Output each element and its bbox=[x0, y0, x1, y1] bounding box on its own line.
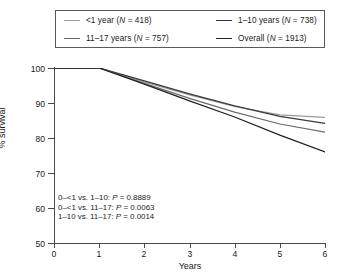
y-tick-label-50: 50 bbox=[35, 239, 45, 249]
p-value-annotations: 0–<1 vs. 1–10: P = 0.8889 0–<1 vs. 11–17… bbox=[58, 193, 154, 222]
x-tick-label-5: 5 bbox=[278, 249, 283, 259]
legend-label-under-1-year: <1 year (N = 418) bbox=[86, 16, 152, 25]
x-tick-label-6: 6 bbox=[323, 249, 328, 259]
y-tick-label-60: 60 bbox=[35, 204, 45, 214]
curve-11-17-years bbox=[54, 68, 325, 132]
legend-swatch-under-1-year bbox=[64, 20, 80, 21]
curve--1-year bbox=[54, 68, 325, 117]
legend-label-11-17-years: 11–17 years (N = 757) bbox=[86, 34, 169, 43]
legend-label-1-10-years: 1–10 years (N = 738) bbox=[238, 16, 317, 25]
legend-swatch-overall bbox=[216, 38, 232, 39]
legend-item-overall: Overall (N = 1913) bbox=[216, 34, 324, 43]
x-tick-6 bbox=[325, 243, 326, 248]
legend-item-11-17-years: 11–17 years (N = 757) bbox=[64, 34, 216, 43]
p-value-row-0: 0–<1 vs. 1–10: P = 0.8889 bbox=[58, 193, 154, 203]
y-tick-label-70: 70 bbox=[35, 169, 45, 179]
legend-swatch-1-10-years bbox=[216, 20, 232, 21]
survival-chart-figure: <1 year (N = 418) 1–10 years (N = 738) 1… bbox=[0, 0, 341, 279]
x-axis-title: Years bbox=[179, 261, 202, 271]
x-tick-label-0: 0 bbox=[52, 249, 57, 259]
x-tick-3 bbox=[190, 243, 191, 248]
x-tick-4 bbox=[235, 243, 236, 248]
x-tick-2 bbox=[144, 243, 145, 248]
chart-legend: <1 year (N = 418) 1–10 years (N = 738) 1… bbox=[55, 10, 325, 48]
y-tick-label-100: 100 bbox=[31, 64, 45, 74]
p-value-row-2: 1–10 vs. 11–17: P = 0.0014 bbox=[58, 212, 154, 222]
curve-overall bbox=[54, 68, 325, 152]
legend-swatch-11-17-years bbox=[64, 38, 80, 39]
legend-item-1-10-years: 1–10 years (N = 738) bbox=[216, 16, 324, 25]
x-tick-label-1: 1 bbox=[97, 249, 102, 259]
p-value-row-1: 0–<1 vs. 11–17: P = 0.0063 bbox=[58, 203, 154, 213]
x-tick-0 bbox=[54, 243, 55, 248]
y-tick-label-90: 90 bbox=[35, 99, 45, 109]
x-tick-5 bbox=[280, 243, 281, 248]
x-tick-label-3: 3 bbox=[188, 249, 193, 259]
legend-item-under-1-year: <1 year (N = 418) bbox=[64, 16, 216, 25]
legend-label-overall: Overall (N = 1913) bbox=[238, 34, 307, 43]
x-tick-1 bbox=[99, 243, 100, 248]
y-tick-label-80: 80 bbox=[35, 134, 45, 144]
x-tick-label-4: 4 bbox=[233, 249, 238, 259]
y-axis-title: % survival bbox=[0, 107, 7, 148]
x-tick-label-2: 2 bbox=[142, 249, 147, 259]
